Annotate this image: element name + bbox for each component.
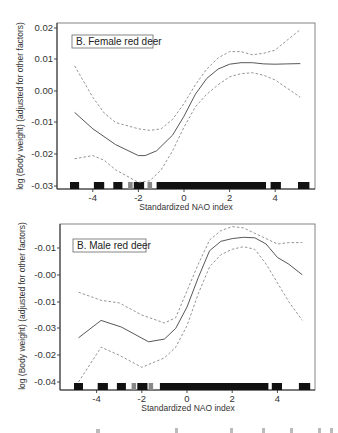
- rug-segment: [98, 383, 108, 390]
- rug-segment: [132, 383, 137, 390]
- x-axis-title: Standardized NAO index: [139, 202, 233, 212]
- cropped-caption-fragment: [96, 428, 333, 433]
- rug-plot: [74, 383, 310, 390]
- y-tick-label: -0.02: [34, 349, 56, 360]
- y-axis-title: log (Body weight) (adjusted for other fa…: [15, 22, 25, 190]
- rug-segment: [149, 383, 154, 390]
- x-axis-title: Standardized NAO index: [141, 403, 235, 413]
- y-tick-label: -0.02: [31, 148, 53, 159]
- rug-segment: [117, 383, 126, 390]
- rug-segment: [148, 182, 153, 189]
- x-ticks: -4-2024: [89, 189, 278, 203]
- y-tick-label: -0.03: [34, 322, 56, 333]
- y-tick-label: -0.01: [34, 296, 56, 307]
- y-tick-label: -0.03: [31, 180, 53, 191]
- x-tick-label: 4: [273, 192, 278, 203]
- y-ticks: 0.020.010.00-0.01-0.02-0.03: [31, 22, 57, 191]
- rug-segment: [128, 182, 133, 189]
- confidence-band-line: [75, 73, 301, 183]
- y-tick-label: -0.01: [31, 116, 53, 127]
- y-tick-label: 0.01: [35, 53, 54, 64]
- confidence-band-line: [79, 247, 303, 382]
- rug-segment: [137, 383, 147, 390]
- rug-segment: [271, 182, 281, 189]
- rug-plot: [70, 182, 309, 189]
- rug-segment: [94, 182, 104, 189]
- legend-box: B. Male red deer: [73, 239, 152, 252]
- x-tick-label: -4: [92, 393, 100, 404]
- fit-line: [79, 237, 303, 341]
- y-ticks: -0.01-0.00-0.01-0.03-0.02-0.04: [34, 242, 60, 387]
- rug-segment: [70, 182, 79, 189]
- legend-label: B. Female red deer: [76, 36, 162, 47]
- x-tick-label: 4: [275, 393, 280, 404]
- y-tick-label: 0.02: [35, 22, 54, 33]
- rug-segment: [299, 383, 310, 390]
- rug-segment: [74, 383, 83, 390]
- rug-segment: [160, 383, 269, 390]
- figure: 0.020.010.00-0.01-0.02-0.03 -4-2024 B. F…: [0, 0, 338, 433]
- rug-segment: [298, 182, 309, 189]
- y-tick-label: -0.01: [34, 242, 56, 253]
- rug-segment: [272, 383, 282, 390]
- legend-box: B. Female red deer: [72, 35, 162, 48]
- rug-segment: [113, 182, 122, 189]
- series-group: [75, 30, 301, 183]
- male-panel: -0.01-0.00-0.01-0.03-0.02-0.04 -4-2024 B…: [17, 222, 315, 413]
- rug-segment: [157, 182, 266, 189]
- rug-segment: [134, 182, 144, 189]
- y-tick-label: -0.00: [34, 269, 56, 280]
- x-tick-label: -4: [89, 192, 97, 203]
- female-panel: 0.020.010.00-0.01-0.02-0.03 -4-2024 B. F…: [15, 22, 315, 212]
- y-tick-label: 0.00: [35, 85, 54, 96]
- y-tick-label: -0.04: [34, 376, 56, 387]
- legend-label: B. Male red deer: [77, 240, 152, 251]
- x-ticks: -4-2024: [92, 390, 280, 404]
- y-axis-title: log (Body weight) (adjusted for other fa…: [17, 222, 27, 390]
